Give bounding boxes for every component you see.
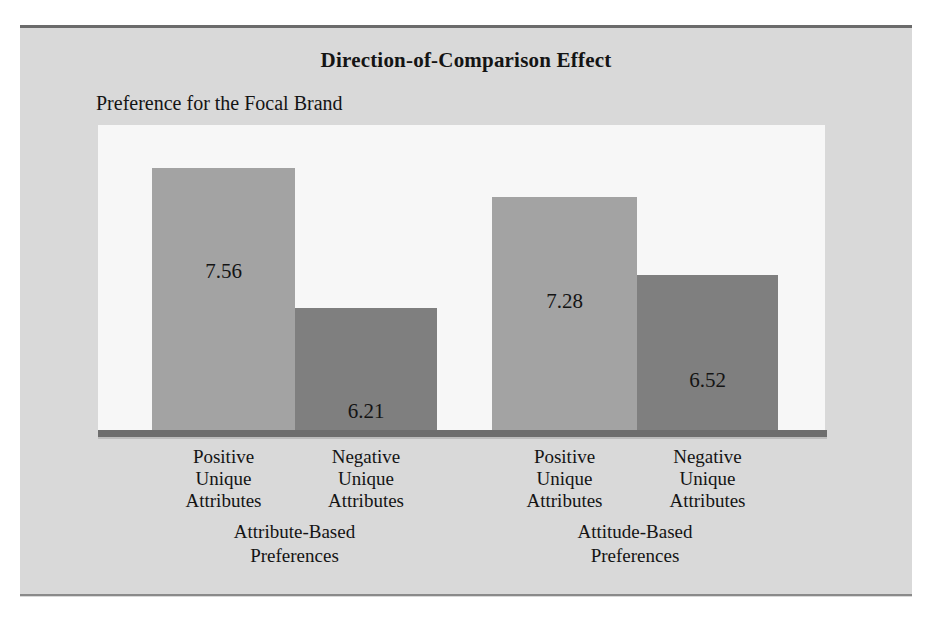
category-label: PositiveUniqueAttributes: [152, 446, 295, 512]
category-label: NegativeUniqueAttributes: [295, 446, 437, 512]
bar-value-label: 6.52: [637, 368, 778, 393]
category-label-line: Attributes: [295, 490, 437, 512]
group-label: Attitude-BasedPreferences: [492, 520, 778, 568]
bar-value-label: 7.28: [492, 289, 637, 314]
category-label-line: Unique: [637, 468, 778, 490]
figure-top-rule: [20, 25, 912, 28]
category-label: NegativeUniqueAttributes: [637, 446, 778, 512]
category-label-line: Unique: [152, 468, 295, 490]
category-label-line: Negative: [637, 446, 778, 468]
plot-area: 7.566.217.286.52: [98, 125, 825, 433]
category-label: PositiveUniqueAttributes: [492, 446, 637, 512]
group-label-line: Preferences: [492, 544, 778, 568]
category-label-line: Unique: [492, 468, 637, 490]
category-label-line: Attributes: [637, 490, 778, 512]
figure-bottom-rule: [20, 594, 912, 596]
category-label-line: Attributes: [152, 490, 295, 512]
group-label-line: Attribute-Based: [152, 520, 437, 544]
x-axis-baseline-shadow: [98, 437, 827, 439]
chart-title: Direction-of-Comparison Effect: [20, 48, 912, 73]
bar-value-label: 7.56: [152, 259, 295, 284]
group-label-line: Attitude-Based: [492, 520, 778, 544]
group-label: Attribute-BasedPreferences: [152, 520, 437, 568]
category-label-line: Negative: [295, 446, 437, 468]
bar-value-label: 6.21: [295, 399, 437, 424]
category-label-line: Unique: [295, 468, 437, 490]
category-label-line: Attributes: [492, 490, 637, 512]
bar: [492, 197, 637, 433]
bar: [152, 168, 295, 433]
category-label-line: Positive: [152, 446, 295, 468]
group-label-line: Preferences: [152, 544, 437, 568]
y-axis-label: Preference for the Focal Brand: [96, 92, 343, 115]
bar: [637, 275, 778, 433]
category-label-line: Positive: [492, 446, 637, 468]
x-axis-baseline: [98, 430, 827, 437]
